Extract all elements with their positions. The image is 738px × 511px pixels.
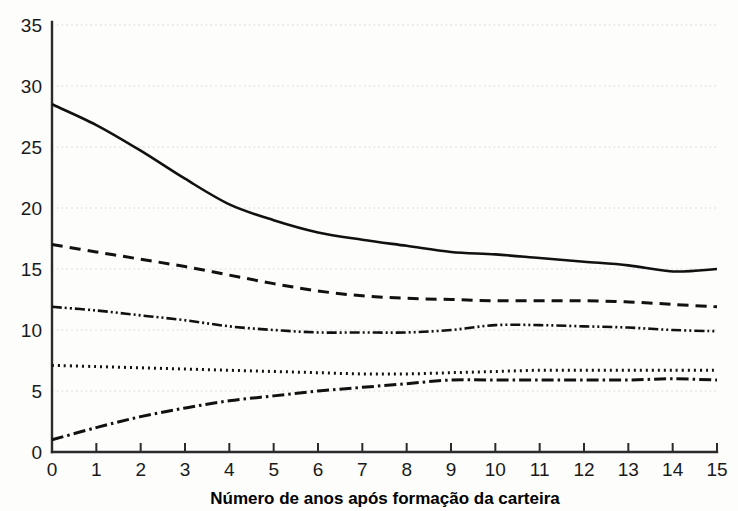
x-tick-label: 4: [224, 459, 235, 480]
x-tick-label: 11: [530, 459, 550, 480]
x-tick-label: 9: [446, 459, 457, 480]
y-tick-label: 35: [21, 15, 42, 36]
series-line-serie-pontilhada: [52, 365, 717, 374]
x-tick-label: 0: [47, 459, 58, 480]
x-tick-label: 15: [706, 459, 727, 480]
x-tick-label: 1: [91, 459, 102, 480]
chart-container: 05101520253035 0123456789101112131415 Nú…: [0, 0, 738, 511]
gridlines-group: [52, 25, 717, 391]
x-tick-label: 10: [485, 459, 506, 480]
series-line-serie-traco-ponto: [52, 379, 717, 440]
x-axis-title: Número de anos após formação da carteira: [210, 489, 560, 508]
y-tick-labels-group: 05101520253035: [21, 15, 42, 463]
x-tick-label: 2: [135, 459, 146, 480]
x-tick-label: 3: [180, 459, 191, 480]
x-tick-label: 5: [268, 459, 279, 480]
x-tick-label: 13: [618, 459, 639, 480]
y-tick-label: 0: [31, 442, 42, 463]
x-tick-labels-group: 0123456789101112131415: [47, 443, 728, 480]
line-chart: 05101520253035 0123456789101112131415 Nú…: [0, 0, 738, 511]
series-group: [52, 104, 717, 440]
x-tick-label: 8: [401, 459, 412, 480]
y-tick-label: 15: [21, 259, 42, 280]
y-tick-label: 5: [31, 381, 42, 402]
series-line-serie-traco-ponto-ponto: [52, 307, 717, 333]
x-tick-label: 14: [662, 459, 684, 480]
x-tick-label: 7: [357, 459, 368, 480]
y-tick-label: 25: [21, 137, 42, 158]
x-tick-label: 12: [573, 459, 594, 480]
series-line-serie-tracejada: [52, 245, 717, 307]
x-tick-label: 6: [313, 459, 324, 480]
series-line-serie-solida: [52, 104, 717, 271]
y-tick-label: 30: [21, 76, 42, 97]
y-tick-label: 20: [21, 198, 42, 219]
y-tick-label: 10: [21, 320, 42, 341]
